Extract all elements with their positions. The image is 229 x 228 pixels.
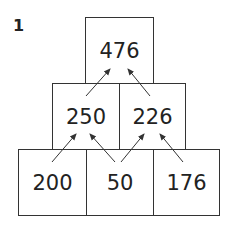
arrow-icon [160,134,183,162]
arrow-icon [90,134,115,162]
arrow-icon [52,134,76,162]
arrow-icon [128,69,150,96]
arrow-icon [121,134,144,162]
arrow-icon [86,69,110,96]
arrows-layer [0,0,229,228]
